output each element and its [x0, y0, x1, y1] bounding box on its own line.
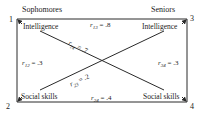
- node-label-intelligence-seniors: Intelligence: [142, 23, 177, 31]
- node-label-intelligence-sophomores: Intelligence: [23, 23, 58, 31]
- cross-lagged-correlation-diagram: Sophomores Seniors 1 2 3 4 Intelligence …: [0, 0, 202, 114]
- node-label-social-skills-sophomores: Social skills: [21, 93, 57, 101]
- coef-r24: r24 = .4: [91, 95, 111, 103]
- arrow-node-3: [182, 20, 186, 24]
- coef-r34: r34 = .3: [158, 60, 178, 68]
- node-number-2: 2: [6, 103, 10, 111]
- arrow-node-1: [18, 20, 22, 24]
- node-number-3: 3: [190, 15, 194, 23]
- arrow-node-4: [182, 97, 186, 101]
- node-number-1: 1: [9, 16, 13, 24]
- coef-r13: r13 = .8: [90, 22, 110, 30]
- node-number-4: 4: [190, 103, 194, 111]
- header-sophomores: Sophomores: [22, 6, 62, 14]
- header-seniors: Seniors: [151, 6, 175, 14]
- node-label-social-skills-seniors: Social skills: [143, 93, 179, 101]
- coef-r12: r12 = .3: [22, 60, 42, 68]
